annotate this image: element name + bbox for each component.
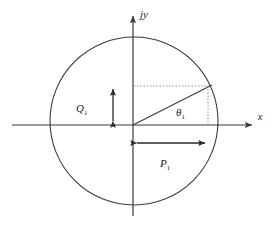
angle-label-subscript: 1 bbox=[181, 113, 185, 121]
real-power-subscript: 1 bbox=[167, 164, 171, 172]
power-circle-diagram: jy x θ1 Q1 P1 bbox=[0, 0, 278, 227]
power-circle bbox=[50, 37, 218, 205]
reactive-power-subscript: 1 bbox=[84, 109, 88, 117]
reactive-power-symbol: Q bbox=[76, 102, 84, 114]
phasor-diagram-container: jy x θ1 Q1 P1 bbox=[0, 0, 278, 227]
x-axis-label: x bbox=[257, 111, 263, 122]
y-axis-label: jy bbox=[138, 8, 148, 20]
real-power-label: P1 bbox=[159, 157, 171, 172]
y-axis-label-text: jy bbox=[138, 8, 148, 20]
angle-label: θ1 bbox=[176, 106, 185, 121]
reactive-power-label: Q1 bbox=[76, 102, 88, 117]
x-axis-label-text: x bbox=[257, 111, 263, 122]
phasor-line bbox=[133, 85, 212, 125]
